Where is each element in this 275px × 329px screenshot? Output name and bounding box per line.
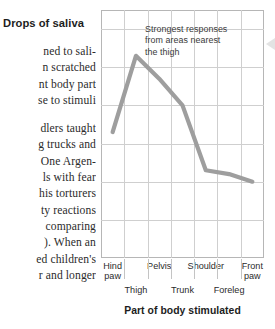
margin-arrow-icon bbox=[266, 38, 275, 50]
body-text-column: ned to sali-n scratchednt body partse to… bbox=[0, 44, 96, 284]
body-text-line: ty reactions bbox=[0, 203, 96, 219]
x-axis-title: Part of body stimulated bbox=[101, 305, 264, 316]
body-text-line: n scratched bbox=[0, 60, 96, 76]
x-axis-tick-label: Hindpaw bbox=[89, 261, 136, 282]
x-axis-separator bbox=[124, 259, 125, 279]
chart-annotation: Strongest responsesfrom areas nearestthe… bbox=[145, 24, 255, 58]
x-axis-tick-label: Pelvis bbox=[136, 261, 183, 271]
body-text-line: g trucks and bbox=[0, 137, 96, 153]
x-axis-tick-label-word: Hind bbox=[89, 261, 136, 271]
x-axis-tick-label: Foreleg bbox=[206, 285, 253, 295]
x-axis-tick-label: Shoulder bbox=[183, 261, 230, 271]
body-text-line: nt body part bbox=[0, 77, 96, 93]
body-text-line: dlers taught bbox=[0, 121, 96, 137]
x-axis-tick-label: Frontpaw bbox=[229, 261, 275, 282]
data-line bbox=[113, 56, 253, 182]
x-axis-tick-label: Thigh bbox=[113, 285, 160, 295]
text-paragraph-gap bbox=[0, 109, 96, 121]
body-text-line: comparing bbox=[0, 219, 96, 235]
body-text-line: ed children's bbox=[0, 252, 96, 268]
x-axis-tick-label-word: Pelvis bbox=[136, 261, 183, 271]
body-text-line: ls with fear bbox=[0, 170, 96, 186]
annotation-line: from areas nearest bbox=[145, 35, 255, 46]
x-axis-tick-label: Trunk bbox=[159, 285, 206, 295]
y-axis-title: Drops of saliva bbox=[3, 17, 84, 29]
x-axis-tick-label-word: Foreleg bbox=[206, 285, 253, 295]
body-text-line: One Argen- bbox=[0, 154, 96, 170]
x-axis-tick-label-word: Trunk bbox=[159, 285, 206, 295]
x-axis-tick-label-word: Thigh bbox=[113, 285, 160, 295]
annotation-line: Strongest responses bbox=[145, 24, 255, 35]
body-text-line: ned to sali- bbox=[0, 44, 96, 60]
x-axis-separator bbox=[194, 259, 195, 279]
body-text-line: se to stimuli bbox=[0, 93, 96, 109]
x-axis-separator bbox=[217, 259, 218, 279]
x-axis-labels: HindpawThighPelvisTrunkShoulderForelegFr… bbox=[101, 259, 264, 305]
x-axis-tick-label-word: paw bbox=[229, 271, 275, 281]
x-axis-separator bbox=[148, 259, 149, 279]
page-canvas: ned to sali-n scratchednt body partse to… bbox=[0, 0, 275, 329]
line-chart: 0102030405060 Strongest responsesfrom ar… bbox=[101, 10, 264, 258]
annotation-line: the thigh bbox=[145, 47, 255, 58]
body-text-line: ). When an bbox=[0, 235, 96, 251]
x-axis-tick-label-word: paw bbox=[89, 271, 136, 281]
body-text-line: r and longer bbox=[0, 268, 96, 284]
x-axis-separator bbox=[171, 259, 172, 279]
x-axis-tick-label-word: Shoulder bbox=[183, 261, 230, 271]
x-axis-separator bbox=[241, 259, 242, 279]
x-axis-tick-label-word: Front bbox=[229, 261, 275, 271]
body-text-line: his torturers bbox=[0, 186, 96, 202]
